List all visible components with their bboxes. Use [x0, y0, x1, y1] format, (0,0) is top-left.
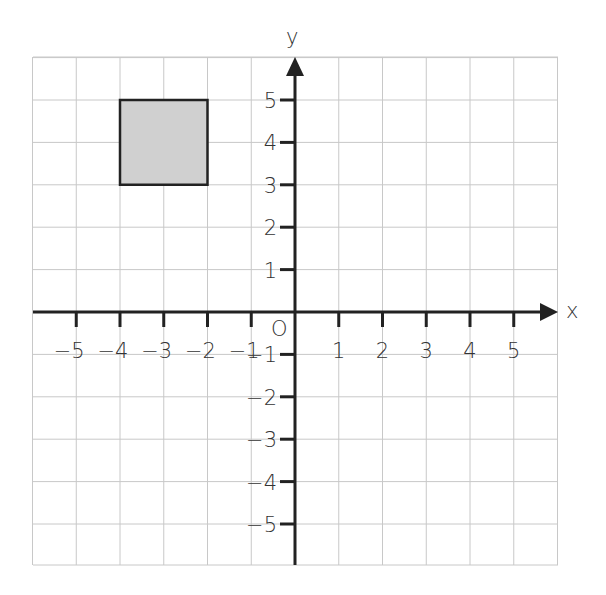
- x-tick-label: 2: [376, 339, 389, 363]
- x-axis-arrow-icon: [540, 303, 558, 321]
- y-tick-label: −3: [246, 428, 277, 452]
- y-tick-label: 4: [264, 131, 277, 155]
- y-tick-label: 1: [264, 259, 277, 283]
- x-tick-label: 4: [463, 339, 476, 363]
- x-tick-label: −5: [54, 339, 85, 363]
- y-tick-label: −1: [246, 343, 277, 367]
- x-axis-label: x: [566, 299, 578, 323]
- y-tick-label: −5: [246, 513, 277, 537]
- x-tick-label: −3: [141, 339, 172, 363]
- y-tick-label: 5: [264, 89, 277, 113]
- origin-label: O: [271, 317, 288, 341]
- x-tick-label: 5: [507, 339, 520, 363]
- y-tick-label: 3: [264, 174, 277, 198]
- x-tick-label: −4: [98, 339, 129, 363]
- y-tick-label: 2: [264, 216, 277, 240]
- x-tick-label: 1: [332, 339, 345, 363]
- x-tick-label: −2: [185, 339, 216, 363]
- x-tick-label: 3: [420, 339, 433, 363]
- y-tick-label: −4: [246, 471, 277, 495]
- coordinate-plane: −5−4−3−2−11234554321−1−2−3−4−5xyO: [0, 0, 606, 595]
- y-axis-arrow-icon: [286, 57, 304, 76]
- square-shape: [120, 100, 208, 185]
- y-tick-label: −2: [246, 386, 277, 410]
- y-axis-label: y: [286, 25, 298, 49]
